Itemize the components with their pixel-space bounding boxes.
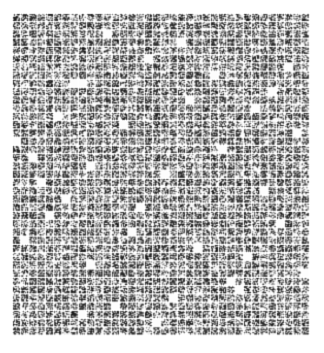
page-canvas bbox=[0, 0, 324, 353]
patch-grid bbox=[0, 0, 324, 353]
